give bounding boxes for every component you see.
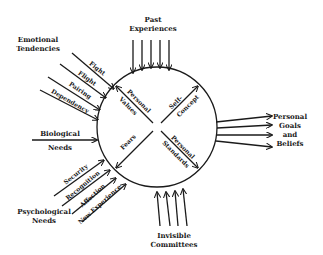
label-and: and xyxy=(283,130,298,139)
label-tendencies: Tendencies xyxy=(16,44,60,53)
label-past: Past xyxy=(145,15,163,24)
quadrant-fears: Fears xyxy=(119,132,138,151)
label-beliefs: Beliefs xyxy=(276,139,303,148)
label-personal: Personal xyxy=(273,112,307,121)
label-experiences: Experiences xyxy=(129,24,176,33)
personality-diagram: Personal Values Self- Concept Fears Pers… xyxy=(0,0,323,255)
input-invisible-committees: Invisible Committees xyxy=(150,189,197,249)
label-needs: Needs xyxy=(48,143,72,152)
quadrant-self-concept: Self- Concept xyxy=(167,85,201,119)
input-past-experiences: Past Experiences xyxy=(129,15,176,73)
central-circle xyxy=(97,67,217,187)
label-invisible: Invisible xyxy=(157,231,191,240)
label-biological: Biological xyxy=(40,129,80,138)
label-emotional: Emotional xyxy=(18,35,59,44)
output-personal-goals-beliefs: Personal Goals and Beliefs xyxy=(216,112,307,148)
label-psychological: Psychological xyxy=(17,207,71,216)
input-emotional-tendencies: Emotional Tendencies Fight Flight Pairin… xyxy=(16,35,114,120)
quadrant-label-line: Fears xyxy=(119,132,138,151)
quadrant-dividers xyxy=(116,86,198,168)
label-goals: Goals xyxy=(279,121,301,130)
input-psychological-needs: Psychological Needs Security Recognition… xyxy=(17,160,126,226)
label-needs: Needs xyxy=(32,216,56,225)
label-committees: Committees xyxy=(150,240,197,249)
input-biological-needs: Biological Needs xyxy=(32,129,97,152)
